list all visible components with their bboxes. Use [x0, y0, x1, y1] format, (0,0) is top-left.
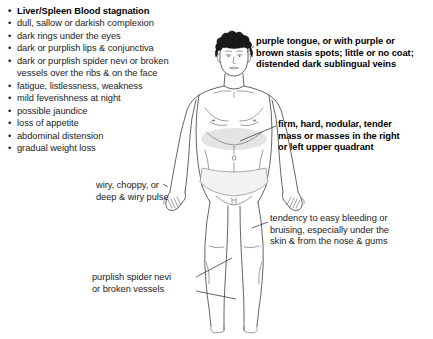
leader-tongue	[247, 46, 254, 52]
annotation-mass: firm, hard, nodular, tender mass or mass…	[278, 119, 433, 154]
symptom-list: •Liver/Spleen Blood stagnation •dull, sa…	[8, 5, 233, 154]
list-item: •gradual weight loss	[8, 142, 233, 154]
bullet-glyph: •	[8, 17, 11, 29]
bullet-glyph: •	[8, 5, 11, 17]
list-item: •dull, sallow or darkish complexion	[8, 17, 233, 29]
symptom-text: dark rings under the eyes	[17, 31, 121, 41]
list-item: •loss of appetite	[8, 117, 233, 129]
leader-bleeding	[252, 222, 268, 228]
list-item: •dark rings under the eyes	[8, 30, 233, 42]
annotation-bleeding: tendency to easy bleeding or bruising, e…	[270, 213, 433, 248]
bullet-glyph: •	[8, 142, 11, 154]
symptom-text: fatigue, listlessness, weakness	[17, 81, 143, 91]
symptom-heading-text: Liver/Spleen Blood stagnation	[17, 6, 149, 16]
annotation-tongue: purple tongue, or with purple or brown s…	[256, 36, 433, 71]
bullet-glyph: •	[8, 80, 11, 92]
annotation-pulse: wiry, choppy, or deep & wiry pulse	[96, 180, 196, 203]
symptom-text: abdominal distension	[17, 131, 103, 141]
symptom-text: possible jaundice	[17, 106, 87, 116]
leader-mass	[240, 126, 276, 141]
bullet-glyph: •	[8, 92, 11, 104]
symptom-text-continuation: vessels over the ribs & on the face	[17, 67, 233, 79]
list-item: •dark or purplish spider nevi or brokenv…	[8, 55, 233, 80]
right-hand	[283, 192, 305, 211]
bullet-glyph: •	[8, 55, 11, 67]
bullet-glyph: •	[8, 117, 11, 129]
symptom-text: dull, sallow or darkish complexion	[17, 18, 154, 28]
annotation-nevi: purplish spider nevi or broken vessels	[92, 272, 210, 295]
symptom-text: mild feverishness at night	[17, 93, 121, 103]
bullet-glyph: •	[8, 30, 11, 42]
list-item: •mild feverishness at night	[8, 92, 233, 104]
diagram-page: •Liver/Spleen Blood stagnation •dull, sa…	[0, 0, 433, 339]
list-item: •dark or purplish lips & conjunctiva	[8, 42, 233, 54]
symptom-text: dark or purplish spider nevi or broken	[17, 56, 169, 66]
list-item: •abdominal distension	[8, 130, 233, 142]
symptom-text: dark or purplish lips & conjunctiva	[17, 43, 154, 53]
bullet-glyph: •	[8, 130, 11, 142]
symptom-text: gradual weight loss	[17, 143, 96, 153]
list-item-heading: •Liver/Spleen Blood stagnation	[8, 5, 233, 17]
list-item: •fatigue, listlessness, weakness	[8, 80, 233, 92]
bullet-glyph: •	[8, 105, 11, 117]
bullet-glyph: •	[8, 42, 11, 54]
symptom-text: loss of appetite	[17, 118, 79, 128]
list-item: •possible jaundice	[8, 105, 233, 117]
